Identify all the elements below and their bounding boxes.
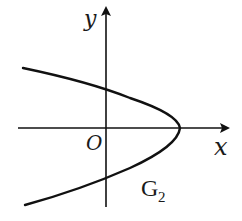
curve-label: G [141, 175, 158, 201]
coordinate-diagram: y x O G 2 [0, 0, 242, 221]
curve-label-subscript: 2 [158, 189, 166, 205]
y-axis-label: y [83, 6, 97, 31]
x-axis-label: x [214, 133, 228, 161]
origin-label: O [86, 131, 102, 155]
